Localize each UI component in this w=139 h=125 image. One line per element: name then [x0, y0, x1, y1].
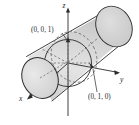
z-axis-arrowhead — [66, 8, 70, 13]
point-right-leader-line — [93, 69, 97, 92]
figure-container: z y x (0, 0, 1) (0, 1, 0) — [0, 0, 139, 125]
point-top-label: (0, 0, 1) — [31, 26, 54, 34]
y-axis-label: y — [119, 75, 124, 84]
point-right-label: (0, 1, 0) — [88, 93, 111, 101]
cylinder-diagram: z y x (0, 0, 1) (0, 1, 0) — [0, 0, 139, 125]
z-axis-label: z — [62, 1, 66, 10]
x-axis-label: x — [18, 94, 23, 103]
